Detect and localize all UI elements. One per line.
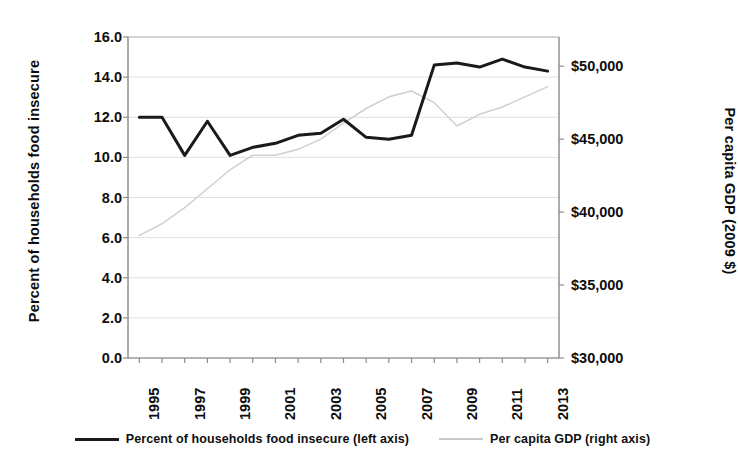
- series-line: [139, 59, 547, 155]
- legend-label: Per capita GDP (right axis): [490, 432, 650, 446]
- legend-line-icon: [439, 438, 483, 440]
- legend-item[interactable]: Percent of households food insecure (lef…: [75, 432, 409, 446]
- legend-line-icon: [75, 438, 119, 441]
- chart-legend: Percent of households food insecure (lef…: [0, 432, 725, 446]
- legend-label: Percent of households food insecure (lef…: [126, 432, 409, 446]
- series-line: [139, 87, 547, 236]
- legend-item[interactable]: Per capita GDP (right axis): [439, 432, 650, 446]
